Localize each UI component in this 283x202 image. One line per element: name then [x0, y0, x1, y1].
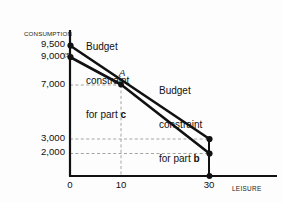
- x-tick-0: 0: [60, 180, 80, 191]
- annotation-budget-constraint-part-c: Budget constraint for part c: [86, 19, 129, 142]
- annotation-b-part-letter: b: [193, 153, 199, 164]
- annotation-b-line2: constraint: [159, 119, 202, 130]
- y-axis-title-line1: CONSUMPTION: [14, 31, 72, 38]
- annotation-c-line1: Budget: [86, 41, 129, 52]
- annotation-c-line3-text: for part: [86, 109, 120, 120]
- annotation-b-line3: for part b: [159, 153, 202, 164]
- marker-30-2000: [206, 150, 212, 156]
- y-tick-7000: 7,000: [18, 79, 65, 90]
- annotation-b-line1: Budget: [159, 85, 202, 96]
- x-axis-title: LEISURE: [232, 185, 261, 192]
- y-tick-2000: 2,000: [18, 147, 65, 158]
- annotation-c-part-letter: c: [120, 109, 126, 120]
- y-tick-9000: 9,000: [18, 51, 65, 62]
- annotation-b-line3-text: for part: [159, 153, 193, 164]
- consumption-leisure-budget-constraint-figure: CONSUMPTION ($) 9,500 9,000 7,000 3,000 …: [0, 0, 283, 202]
- y-tick-9500: 9,500: [18, 39, 65, 50]
- annotation-c-line3: for part c: [86, 109, 129, 120]
- x-tick-10: 10: [111, 180, 131, 191]
- annotation-budget-constraint-part-b: Budget constraint for part b: [159, 63, 202, 186]
- point-a-label: A: [119, 68, 125, 79]
- marker-30-3000: [206, 136, 212, 142]
- y-tick-3000: 3,000: [18, 133, 65, 144]
